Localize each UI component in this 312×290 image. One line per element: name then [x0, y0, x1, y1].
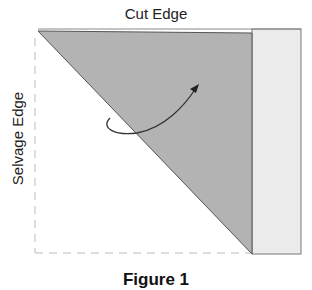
figure-caption: Figure 1 — [0, 270, 312, 290]
fabric-strip — [252, 29, 301, 254]
folded-triangle — [38, 31, 252, 254]
